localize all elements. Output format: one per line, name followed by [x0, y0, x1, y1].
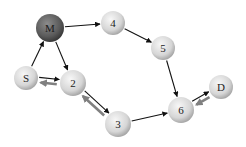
forward-edge-M-4 — [65, 24, 100, 27]
forward-edge-S-M — [32, 42, 44, 67]
forward-edge-M-2 — [56, 42, 68, 70]
node-D: D — [209, 75, 233, 99]
node-label: 5 — [160, 42, 166, 54]
node-label: D — [217, 81, 225, 93]
node-4: 4 — [101, 11, 125, 35]
node-M: M — [36, 14, 64, 42]
node-label: 3 — [115, 118, 121, 130]
node-label: 2 — [70, 77, 76, 89]
node-5: 5 — [151, 36, 175, 60]
forward-edge-4-5 — [125, 29, 152, 42]
forward-edge-3-6 — [132, 113, 168, 121]
forward-edge-5-6 — [167, 60, 177, 96]
forward-edge-S-2 — [39, 77, 59, 79]
return-edge-2-S — [41, 83, 57, 85]
node-label: S — [23, 72, 29, 84]
node-label: 6 — [178, 104, 184, 116]
nodes: M45S236D — [14, 11, 233, 137]
node-label: 4 — [110, 17, 116, 29]
node-label: M — [45, 22, 55, 34]
node-6: 6 — [168, 97, 194, 123]
node-S: S — [14, 66, 38, 90]
network-diagram: M45S236D — [0, 0, 246, 147]
node-2: 2 — [60, 70, 86, 96]
node-3: 3 — [105, 111, 131, 137]
